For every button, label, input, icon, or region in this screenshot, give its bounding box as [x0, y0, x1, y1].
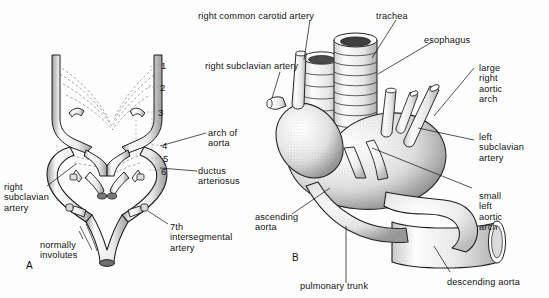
panel-letter-a: A [26, 260, 33, 271]
label-pulmonary-trunk: pulmonary trunk [300, 281, 368, 291]
label-ductus-arteriosus: ductus arteriosus [198, 166, 240, 187]
label-normally-involutes: normally involutes [40, 240, 78, 261]
arch-number-3: 3 [158, 107, 163, 118]
label-small-left-aortic-arch: small left aortic arch [479, 191, 502, 233]
label-left-subclavian-artery: left subclavian artery [479, 132, 524, 163]
panel-b-artwork [267, 20, 506, 283]
arch-number-6: 6 [161, 166, 166, 177]
label-descending-aorta: descending aorta [447, 277, 520, 287]
label-right-common-carotid-artery: right common carotid artery [198, 11, 314, 21]
arch-number-1: 1 [161, 60, 166, 71]
figure-root: right subclavian artery normally involut… [0, 0, 549, 298]
label-right-subclavian-artery-b: right subclavian artery [205, 61, 298, 71]
label-right-subclavian-artery-a: right subclavian artery [4, 182, 49, 213]
panel-letter-b: B [292, 252, 299, 263]
arch-number-4: 4 [162, 140, 167, 151]
label-arch-of-aorta: arch of aorta [208, 128, 237, 149]
arch-number-5: 5 [163, 153, 168, 164]
label-large-right-aortic-arch: large right aortic arch [479, 63, 502, 105]
label-ascending-aorta: ascending aorta [255, 212, 298, 233]
label-7th-intersegmental-artery: 7th intersegmental artery [170, 222, 232, 253]
label-trachea: trachea [376, 11, 408, 21]
arch-number-2: 2 [160, 82, 165, 93]
label-esophagus: esophagus [424, 35, 470, 45]
